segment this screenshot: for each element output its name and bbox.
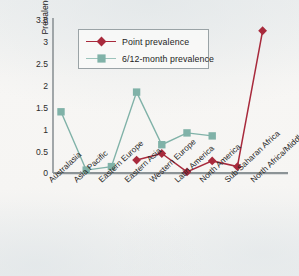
square-icon xyxy=(96,53,107,64)
legend-item-month-prevalence: 6/12-month prevalence xyxy=(86,50,214,67)
data-point-6-12-month-prevalence-latin-america xyxy=(183,129,190,136)
legend-swatch-diamond xyxy=(86,36,116,47)
data-point-6-12-month-prevalence-eastern-asia xyxy=(133,88,140,95)
legend: Point prevalence 6/12-month prevalence xyxy=(78,29,209,69)
data-point-point-prevalence-north-africa-middle-east xyxy=(258,26,267,35)
legend-label: 6/12-month prevalence xyxy=(122,54,214,64)
legend-item-point-prevalence: Point prevalence xyxy=(86,33,189,50)
diamond-icon xyxy=(95,35,108,48)
data-point-6-12-month-prevalence-north-america xyxy=(209,132,216,139)
data-point-6-12-month-prevalence-australasia xyxy=(57,108,64,115)
legend-label: Point prevalence xyxy=(122,37,189,47)
chart-figure: Prevalence (%) 3.5 3 2.5 2 1.5 1 0.5 0 P… xyxy=(0,0,299,276)
legend-swatch-square xyxy=(86,53,116,64)
